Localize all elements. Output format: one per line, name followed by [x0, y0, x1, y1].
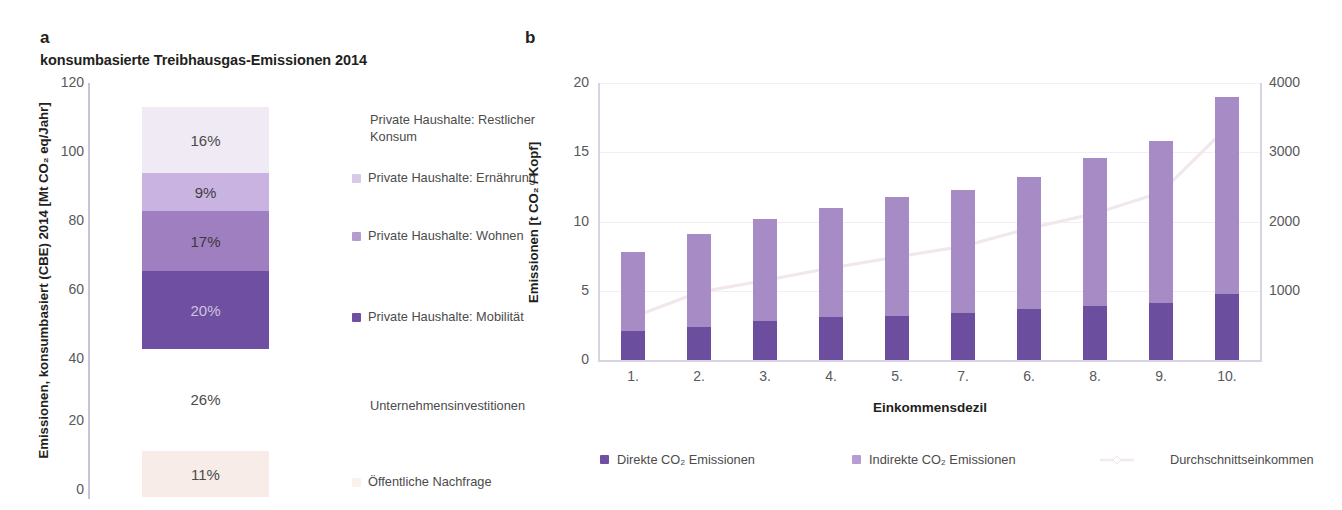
panel-b-bar-direct-3: [753, 321, 777, 360]
panel-b-ytick-right-3000: 3000: [1269, 143, 1325, 159]
legend-line-marker-icon-durchschnittseinkommen: [1100, 455, 1134, 464]
legend-swatch-icon-oeffentliche-nachfrage: [352, 478, 361, 487]
panel-a-legend-label-oeffentliche-nachfrage: Öffentliche Nachfrage: [368, 474, 492, 491]
panel-a-segment-label-mobilitaet: 20%: [190, 302, 220, 319]
panel-b-ytick-right-1000: 1000: [1269, 282, 1325, 298]
panel-b-xtick-2: 2.: [669, 368, 729, 384]
panel-b-income-markers: [627, 121, 1233, 323]
panel-b-legend-label-durchschnittseinkommen: Durchschnittseinkommen: [1170, 452, 1314, 467]
panel-b-bar-indirect-1: [621, 252, 645, 331]
panel-b-bar-decile-4[interactable]: [819, 208, 843, 360]
panel-b-xtick-10: 10.: [1197, 368, 1257, 384]
panel-b-bar-indirect-2: [687, 234, 711, 327]
panel-b-bar-direct-8: [1083, 306, 1107, 360]
panel-b-bar-indirect-4: [819, 208, 843, 317]
panel-b: b Emissionen [t CO₂ / Kopf] Durchschnitt…: [505, 0, 1342, 510]
panel-b-ytick-left-15: 15: [545, 143, 589, 159]
panel-b-xtick-8: 8.: [1065, 368, 1125, 384]
panel-b-bar-decile-2[interactable]: [687, 234, 711, 360]
panel-b-bar-direct-5: [885, 316, 909, 360]
panel-b-xtick-5: 5.: [867, 368, 927, 384]
panel-b-legend-label-indirekte: Indirekte CO₂ Emissionen: [869, 452, 1016, 467]
panel-a-y-axis-line: [88, 83, 90, 499]
panel-a-legend-label-unternehmensinvestitionen: Unternehmensinvestitionen: [370, 398, 525, 415]
panel-b-ytick-left-20: 20: [545, 74, 589, 90]
panel-b-xtick-9: 9.: [1131, 368, 1191, 384]
panel-b-xtick-4: 4.: [801, 368, 861, 384]
legend-swatch-icon-indirekte: [852, 455, 861, 464]
panel-b-x-axis-line: [598, 360, 1262, 362]
panel-a-plot-area: 16% 9% 17% 20% 26% 11%: [96, 83, 296, 497]
panel-b-xtick-3: 3.: [735, 368, 795, 384]
panel-b-bar-indirect-8: [1083, 158, 1107, 306]
panel-b-bar-decile-6[interactable]: [1017, 177, 1041, 360]
panel-b-bar-decile-1[interactable]: [621, 252, 645, 360]
panel-b-bar-indirect-5: [885, 197, 909, 316]
panel-b-bar-direct-9: [1149, 303, 1173, 360]
panel-b-x-axis-label: Einkommensdezil: [600, 400, 1260, 415]
panel-b-ytick-right-2000: 2000: [1269, 213, 1325, 229]
panel-a-segment-mobilitaet[interactable]: 20%: [142, 271, 269, 349]
panel-a-segment-label-restlicher-konsum: 16%: [190, 132, 220, 149]
panel-b-y-axis-right-line: [1260, 83, 1262, 361]
panel-b-bar-indirect-10: [1215, 97, 1239, 294]
panel-b-bar-direct-2: [687, 327, 711, 360]
panel-a-ytick-60: 60: [40, 281, 84, 297]
panel-a-segment-wohnen[interactable]: 17%: [142, 211, 269, 271]
panel-b-ytick-right-4000: 4000: [1269, 74, 1325, 90]
panel-a-ytick-80: 80: [40, 212, 84, 228]
panel-b-bar-indirect-7: [951, 190, 975, 313]
panel-b-bar-indirect-6: [1017, 177, 1041, 309]
panel-b-bar-direct-1: [621, 331, 645, 360]
panel-b-bar-indirect-3: [753, 219, 777, 321]
panel-b-bar-direct-4: [819, 317, 843, 360]
panel-b-bar-direct-6: [1017, 309, 1041, 360]
panel-a-ytick-20: 20: [40, 412, 84, 428]
panel-b-income-line: [633, 127, 1227, 317]
panel-a-ytick-100: 100: [40, 143, 84, 159]
panel-a-ytick-40: 40: [40, 350, 84, 366]
panel-b-xtick-1: 1.: [603, 368, 663, 384]
panel-b-legend-item-durchschnittseinkommen[interactable]: Durchschnittseinkommen: [1100, 452, 1314, 467]
panel-b-ytick-left-5: 5: [545, 282, 589, 298]
panel-b-xtick-7: 7.: [933, 368, 993, 384]
panel-a-segment-unternehmensinvestitionen[interactable]: 26%: [142, 373, 269, 425]
panel-a-segment-ernaehrung[interactable]: 9%: [142, 173, 269, 211]
panel-a: a konsumbasierte Treibhausgas-Emissionen…: [0, 0, 520, 510]
panel-a-segment-restlicher-konsum[interactable]: 16%: [142, 107, 269, 173]
panel-b-legend-label-direkte: Direkte CO₂ Emissionen: [617, 452, 755, 467]
panel-a-ytick-120: 120: [40, 74, 84, 90]
panel-a-ytick-0: 0: [40, 481, 84, 497]
panel-b-plot-area: [600, 83, 1260, 360]
panel-b-bar-direct-10: [1215, 294, 1239, 360]
panel-a-segment-oeffentliche-nachfrage[interactable]: 11%: [142, 451, 269, 497]
panel-b-bar-decile-8[interactable]: [1083, 158, 1107, 360]
legend-swatch-icon-ernaehrung: [352, 174, 361, 183]
panel-b-bar-direct-7: [951, 313, 975, 360]
panel-b-bar-decile-7[interactable]: [951, 190, 975, 360]
legend-swatch-icon-mobilitaet: [352, 313, 361, 322]
panel-b-legend-item-direkte[interactable]: Direkte CO₂ Emissionen: [600, 452, 755, 467]
panel-b-xtick-6: 6.: [999, 368, 1059, 384]
panel-a-legend-label-wohnen: Private Haushalte: Wohnen: [368, 228, 524, 245]
panel-a-title: konsumbasierte Treibhausgas-Emissionen 2…: [40, 52, 367, 68]
legend-swatch-icon-wohnen: [352, 232, 361, 241]
panel-b-letter: b: [525, 28, 535, 48]
panel-a-letter: a: [40, 28, 49, 48]
panel-b-y-axis-label-left: Emissionen [t CO₂ / Kopf]: [526, 113, 541, 333]
panel-b-bar-decile-9[interactable]: [1149, 141, 1173, 360]
panel-a-segment-label-ernaehrung: 9%: [195, 184, 217, 201]
panel-b-ytick-left-0: 0: [545, 351, 589, 367]
panel-a-legend-label-mobilitaet: Private Haushalte: Mobilität: [368, 309, 524, 326]
panel-b-bar-decile-10[interactable]: [1215, 97, 1239, 360]
panel-b-bar-indirect-9: [1149, 141, 1173, 303]
panel-b-legend-item-indirekte[interactable]: Indirekte CO₂ Emissionen: [852, 452, 1016, 467]
panel-b-ytick-left-10: 10: [545, 213, 589, 229]
legend-swatch-icon-direkte: [600, 455, 609, 464]
panel-a-segment-label-wohnen: 17%: [190, 233, 220, 250]
panel-a-segment-label-unternehmensinvestitionen: 26%: [190, 391, 220, 408]
panel-b-bar-decile-3[interactable]: [753, 219, 777, 360]
panel-b-bar-decile-5[interactable]: [885, 197, 909, 360]
panel-a-segment-label-oeffentliche-nachfrage: 11%: [191, 466, 220, 483]
